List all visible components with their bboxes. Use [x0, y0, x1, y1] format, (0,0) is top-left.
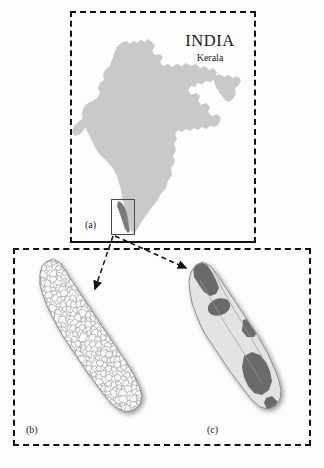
panel-a-base-line — [70, 241, 256, 243]
panel-bc-frame — [13, 248, 311, 446]
panel-a-label: (a) — [85, 219, 96, 230]
panel-c-label: (c) — [207, 424, 218, 435]
kerala-subtitle: Kerala — [168, 52, 252, 63]
kerala-inset-box — [111, 199, 135, 235]
figure-container: INDIA Kerala — [0, 0, 324, 468]
panel-b-label: (b) — [26, 424, 38, 435]
india-title: INDIA — [168, 31, 252, 51]
